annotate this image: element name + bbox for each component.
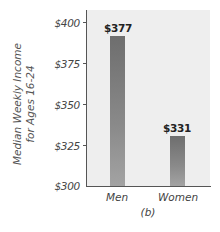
- y-axis-title: Median Weekly Income for Ages 16-24: [11, 29, 37, 179]
- y-axis-line: [86, 10, 87, 187]
- y-axis-title-line-2: for Ages 16-24: [24, 29, 37, 179]
- y-tick-label: $325: [54, 140, 80, 152]
- x-axis-line: [86, 186, 211, 187]
- bar-value-label-women: $331: [163, 122, 191, 134]
- y-axis-title-line-1: Median Weekly Income: [11, 29, 24, 179]
- chart-subtitle: (b): [141, 206, 156, 218]
- bar-women: [170, 136, 185, 186]
- x-category-label-men: Men: [106, 191, 128, 203]
- y-tick-325: [83, 145, 87, 146]
- y-tick-400: [83, 22, 87, 23]
- y-tick-label: $350: [54, 99, 80, 111]
- bar-value-label-men: $377: [104, 22, 132, 34]
- x-category-label-women: Women: [158, 191, 198, 203]
- y-tick-label: $300: [54, 180, 80, 192]
- y-tick-label: $400: [54, 17, 80, 29]
- bar-men: [110, 36, 125, 186]
- y-tick-label: $375: [54, 58, 80, 70]
- y-tick-375: [83, 63, 87, 64]
- plot-area: [87, 10, 210, 186]
- y-tick-350: [83, 104, 87, 105]
